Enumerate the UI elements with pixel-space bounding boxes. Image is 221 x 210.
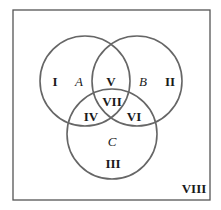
set-label-a: A [74, 74, 83, 89]
region-i: I [52, 74, 57, 89]
region-iii: III [105, 156, 120, 171]
region-viii: VIII [182, 181, 207, 196]
set-label-c: C [108, 134, 117, 149]
region-v: V [106, 74, 116, 89]
region-vii: VII [102, 94, 122, 109]
venn-diagram: A B C I II III IV V VI VII VIII [0, 0, 221, 210]
region-iv: IV [84, 109, 99, 124]
region-vi: VI [127, 109, 141, 124]
region-ii: II [165, 74, 175, 89]
set-label-b: B [139, 74, 147, 89]
